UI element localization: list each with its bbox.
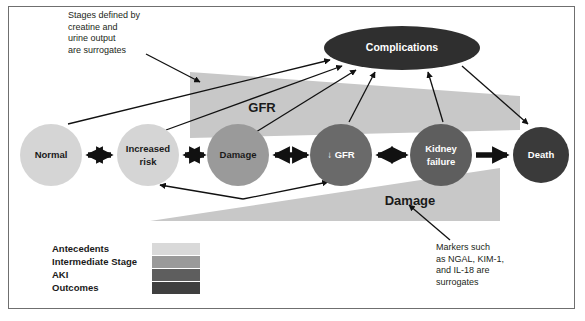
node-kidney-failure[interactable]: Kidney failure	[410, 124, 472, 186]
node-label-increased-risk-line2: risk	[140, 156, 158, 167]
legend-item-intermediate-stage: Intermediate Stage	[52, 256, 200, 268]
stages-note-line-4: are surrogates	[68, 45, 127, 55]
legend-swatch-outcomes	[152, 282, 200, 294]
legend-label-outcomes: Outcomes	[52, 282, 98, 293]
node-label-increased-risk-line1: Increased	[126, 143, 171, 154]
legend-item-aki: AKI	[52, 269, 200, 281]
svg-text:Stages defined by crea: Stages defined by creatine and urine out…	[68, 10, 143, 55]
node-normal[interactable]: Normal	[20, 124, 82, 186]
markers-note-line-1: Markers such	[436, 242, 490, 252]
node-label-kidney-failure-line2: failure	[427, 156, 456, 167]
legend-swatch-intermediate-stage	[152, 256, 200, 268]
aki-conceptual-model-diagram: GFR Damage	[0, 0, 585, 321]
markers-note-line-2: as NGAL, KIM-1,	[436, 254, 504, 264]
node-increased-risk[interactable]: Increased risk	[117, 124, 179, 186]
stages-note-line-1: Stages defined by	[68, 10, 141, 20]
node-death[interactable]: Death	[513, 127, 569, 183]
stages-note-leader-arrow	[146, 54, 200, 82]
markers-note-line-3: and IL-18 are	[436, 265, 490, 275]
band-label-gfr: GFR	[248, 100, 276, 115]
legend: Antecedents Intermediate Stage AKI Outco…	[52, 243, 200, 294]
annotation-stages-note: Stages defined by creatine and urine out…	[68, 10, 143, 55]
node-label-damage: Damage	[220, 149, 257, 160]
node-damage[interactable]: Damage	[207, 124, 269, 186]
legend-item-outcomes: Outcomes	[52, 282, 200, 294]
node-label-death: Death	[528, 149, 555, 160]
legend-swatch-aki	[152, 269, 200, 281]
legend-label-aki: AKI	[52, 269, 68, 280]
legend-label-antecedents: Antecedents	[52, 243, 109, 254]
node-label-kidney-failure-line1: Kidney	[425, 143, 457, 154]
legend-item-antecedents: Antecedents	[52, 243, 200, 255]
node-complications[interactable]: Complications	[324, 26, 480, 70]
legend-label-intermediate-stage: Intermediate Stage	[52, 256, 137, 267]
legend-swatch-antecedents	[152, 243, 200, 255]
markers-note-line-4: surrogates	[436, 277, 479, 287]
figure-root: GFR Damage	[0, 0, 585, 321]
node-label-normal: Normal	[35, 149, 68, 160]
recovery-arrow-to-increased-risk	[160, 185, 243, 199]
node-label-gfr-decline: ↓ GFR	[327, 149, 355, 160]
svg-text:Markers such as NGAL,: Markers such as NGAL, KIM-1, and IL-18 a…	[436, 242, 507, 287]
stages-note-line-3: urine output	[68, 33, 116, 43]
node-gfr-decline[interactable]: ↓ GFR	[310, 124, 372, 186]
stages-note-line-2: creatine and	[68, 22, 118, 32]
node-label-complications: Complications	[366, 41, 439, 53]
annotation-markers-note: Markers such as NGAL, KIM-1, and IL-18 a…	[436, 242, 507, 287]
